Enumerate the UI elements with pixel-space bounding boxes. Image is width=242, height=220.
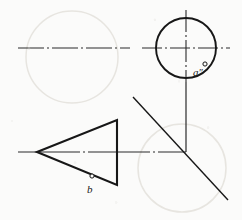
point-marker-a (203, 62, 207, 66)
point-marker-b (90, 174, 94, 178)
diagonal-projection-line (133, 97, 228, 200)
ghost-layer (26, 11, 226, 212)
ghost-circle-bottom-right (138, 124, 226, 212)
ghost-circle-top-left (26, 11, 118, 103)
drawing-svg (0, 0, 242, 220)
point-label-a-prime: ″ (199, 67, 203, 78)
centerline-layer (18, 10, 230, 152)
point-label-a: a″ (193, 67, 203, 78)
point-marker-layer (90, 62, 207, 178)
point-label-b-letter: b (87, 183, 93, 195)
technical-drawing-canvas: a″ b (0, 0, 242, 220)
object-layer (37, 18, 228, 200)
point-label-b: b (87, 184, 93, 195)
